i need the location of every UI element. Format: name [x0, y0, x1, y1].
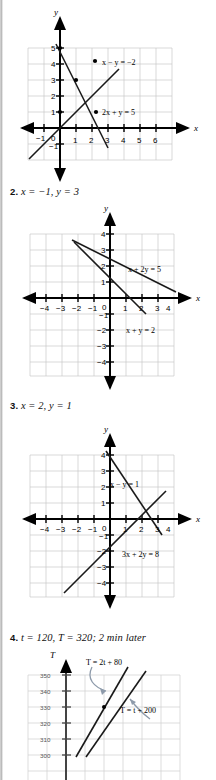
point-marker — [58, 110, 62, 114]
y-tick-label: −1 — [99, 532, 109, 541]
line-label-2: T = t + 200 — [120, 706, 156, 715]
graph-3: −4 −3 −2 −1 0 1 2 3 4 −4 −3 −2 −1 1 2 3 … — [18, 415, 208, 610]
x-tick-label: 2 — [89, 136, 94, 145]
x-tick-label: −2 — [72, 525, 82, 534]
y-tick-label: 4 — [51, 60, 56, 69]
y-tick-label: 2 — [51, 92, 56, 101]
line-label-1: x + 2y = 5 — [128, 265, 161, 274]
intersection-point — [74, 78, 78, 82]
y-tick-label: 1 — [101, 499, 106, 508]
y-tick-label: 330 — [40, 704, 51, 711]
intersection-point — [102, 705, 106, 709]
page-left-rule — [0, 0, 3, 780]
y-tick-label: −4 — [97, 579, 107, 588]
y-tick-label: 3 — [101, 467, 106, 476]
y-tick-label: 1 — [101, 278, 106, 287]
answer-2: 2. x = −1, y = 3 — [10, 186, 79, 197]
y-tick-label: 5 — [51, 44, 56, 53]
y-tick-label: 300 — [40, 752, 51, 759]
x-tick-label: 2 — [139, 304, 144, 313]
y-tick-label: 350 — [40, 672, 51, 679]
y-axis-name: T — [50, 650, 56, 660]
x-axis-name: x — [195, 514, 200, 524]
x-tick-label: −4 — [40, 304, 50, 313]
x-tick-label: −3 — [56, 525, 66, 534]
leader-arrow-1 — [90, 667, 106, 691]
x-axis-name: x — [193, 123, 198, 133]
x-tick-label: −1 — [88, 304, 98, 313]
y-tick-label: −1 — [49, 142, 59, 151]
y-tick-label: −3 — [97, 342, 107, 351]
answer-4-text: t = 120, T = 320; 2 min later — [21, 632, 146, 643]
line-label-1: x − y = −2 — [102, 58, 136, 67]
x-tick-label: −4 — [40, 525, 50, 534]
x-tick-label: 4 — [166, 525, 171, 534]
leader-arrowhead-2 — [130, 699, 136, 705]
y-tick-label: 2 — [101, 262, 106, 271]
answer-3: 3. x = 2, y = 1 — [10, 400, 72, 411]
y-tick-label: −2 — [97, 326, 107, 335]
y-tick-label: −4 — [97, 358, 107, 367]
x-tick-label: 3 — [155, 525, 160, 534]
y-tick-label: 3 — [101, 246, 106, 255]
y-tick-label: 4 — [101, 230, 106, 239]
line-label-2: x + y = 2 — [126, 326, 155, 335]
y-tick-label: 1 — [51, 108, 56, 117]
line-label-2: 2x + y = 5 — [102, 108, 135, 117]
x-tick-label: 3 — [105, 136, 110, 145]
line-label-2: 3x + 2y = 8 — [122, 550, 159, 559]
y-tick-label: 4 — [101, 451, 106, 460]
line-x-minus-y-eq-1 — [64, 491, 166, 593]
answer-2-number: 2. — [10, 186, 18, 197]
y-axis-name: y — [53, 7, 58, 17]
x-axis-name: x — [195, 293, 200, 303]
y-tick-label: 310 — [40, 736, 51, 743]
point-marker — [94, 110, 98, 114]
line-label-1: x − y = 1 — [110, 480, 139, 489]
y-tick-label: 320 — [40, 720, 51, 727]
leader-arrowhead-1 — [100, 688, 106, 695]
x-tick-label: 1 — [73, 136, 78, 145]
y-tick-label: 2 — [101, 483, 106, 492]
x-tick-label: 1 — [123, 304, 128, 313]
y-axis-name: y — [103, 424, 108, 434]
x-tick-label: 4 — [121, 136, 126, 145]
graph-1: −1 0 1 2 3 4 5 6 −1 1 2 3 4 5 x y x − y … — [18, 4, 208, 182]
line-label-1: T = 2t + 80 — [86, 658, 122, 667]
graph-2: −4 −3 −2 −1 0 1 2 3 4 −4 −3 −2 −1 1 2 3 … — [18, 200, 208, 390]
y-axis-name: y — [103, 203, 108, 213]
y-tick-label: −1 — [99, 311, 109, 320]
point-marker — [58, 46, 62, 50]
x-tick-label: 4 — [166, 304, 171, 313]
point-marker — [93, 59, 97, 63]
x-tick-label: −2 — [72, 304, 82, 313]
worksheet-page: −1 0 1 2 3 4 5 6 −1 1 2 3 4 5 x y x − y … — [0, 0, 216, 780]
answer-4-number: 4. — [10, 632, 18, 643]
graph-4: T — [18, 645, 208, 780]
x-tick-label: −1 — [36, 134, 46, 143]
answer-2-text: x = −1, y = 3 — [21, 186, 79, 197]
x-tick-label: 1 — [123, 525, 128, 534]
answer-4: 4. t = 120, T = 320; 2 min later — [10, 632, 146, 643]
y-tick-label: 340 — [40, 688, 51, 695]
answer-3-text: x = 2, y = 1 — [21, 400, 72, 411]
x-tick-label: 3 — [155, 304, 160, 313]
x-tick-label: 5 — [137, 136, 142, 145]
x-tick-label: −3 — [56, 304, 66, 313]
x-tick-label: 6 — [153, 136, 158, 145]
y-tick-label: −2 — [97, 547, 107, 556]
x-tick-label: −1 — [88, 525, 98, 534]
y-tick-label: −3 — [97, 563, 107, 572]
answer-3-number: 3. — [10, 400, 18, 411]
y-tick-label: 3 — [51, 76, 56, 85]
x-tick-label: 2 — [139, 525, 144, 534]
